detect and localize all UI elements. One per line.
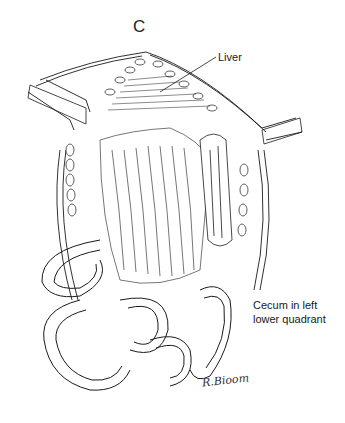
label-cecum-line2: lower quadrant (253, 312, 326, 326)
mesentery (100, 128, 210, 283)
label-cecum: Cecum in left lower quadrant (253, 298, 326, 326)
surgical-illustration (0, 0, 345, 423)
colon (200, 134, 232, 246)
label-cecum-line1: Cecum in left (253, 298, 326, 312)
label-liver: Liver (218, 50, 242, 64)
retractors (28, 85, 302, 144)
small-bowel-loops (42, 240, 231, 390)
